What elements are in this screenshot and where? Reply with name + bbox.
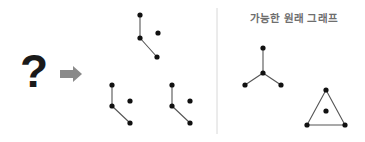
graph-node [323, 108, 328, 113]
fragment-top [137, 12, 160, 59]
graph-node [169, 103, 174, 108]
graph-node [323, 87, 328, 92]
graph-node [187, 98, 192, 103]
graph-edge [172, 106, 190, 123]
graph-reconstruction-figure: ? 가능한 원래 그래프 [0, 0, 365, 142]
graph-node [109, 82, 114, 87]
panel-title: 가능한 원래 그래프 [228, 10, 360, 26]
graph-node [304, 122, 309, 127]
graph-edge [307, 90, 326, 125]
graph-node [169, 82, 174, 87]
graph-edge [245, 73, 263, 85]
graph-node [155, 30, 160, 35]
graph-node [187, 120, 192, 125]
graph-edge [263, 73, 281, 85]
graph-node [127, 120, 132, 125]
graph-edge [112, 106, 130, 123]
graph-node [137, 35, 142, 40]
arrow-right-glyph [60, 66, 82, 82]
graph-node [260, 70, 265, 75]
graph-node [260, 45, 265, 50]
star-graph [242, 45, 283, 87]
triangle-graph [304, 87, 347, 127]
graph-node [342, 122, 347, 127]
arrow-right-icon [60, 66, 82, 82]
graph-node [278, 82, 283, 87]
graph-node [137, 12, 142, 17]
graph-node [154, 54, 159, 59]
graph-node [242, 82, 247, 87]
graph-node [109, 103, 114, 108]
fragment-bottom-left [109, 82, 132, 125]
graph-node [127, 98, 132, 103]
graph-edge [140, 38, 157, 57]
fragment-bottom-right [169, 82, 192, 125]
graph-edge [326, 90, 345, 125]
